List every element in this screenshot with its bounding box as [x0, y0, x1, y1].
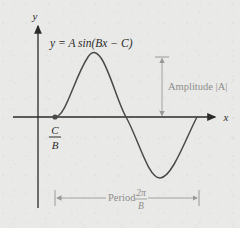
sine-curve-figure: y x y = A sin(Bx − C) C B Amplitude |A| … [0, 0, 240, 228]
period-numerator: 2π [136, 188, 146, 198]
period-label: Period [108, 192, 136, 203]
period-denominator: B [138, 201, 144, 211]
equation-label: y = A sin(Bx − C) [49, 37, 133, 50]
phase-shift-point [52, 114, 57, 119]
y-axis-label: y [32, 10, 38, 22]
phase-shift-denominator: B [52, 139, 59, 151]
phase-shift-numerator: C [51, 124, 59, 136]
sine-curve-group [52, 53, 197, 178]
period-dimension: Period 2π B [55, 188, 199, 211]
amplitude-label: Amplitude |A| [168, 81, 227, 92]
phase-shift-fraction: C B [49, 124, 61, 151]
equation-text: y = A sin(Bx − C) [49, 37, 133, 50]
x-axis-label: x [223, 111, 229, 123]
amplitude-dimension: Amplitude |A| [155, 57, 227, 116]
sine-curve [55, 53, 197, 178]
period-fraction: 2π B [135, 188, 147, 211]
